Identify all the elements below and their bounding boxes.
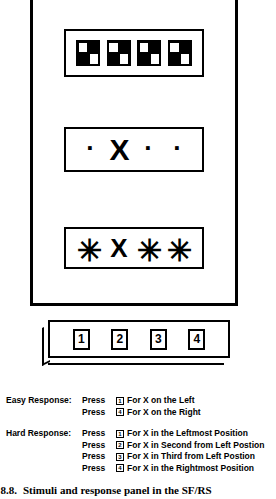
press-label: Press: [82, 463, 116, 475]
key-chip-icon: 1: [116, 397, 124, 405]
press-label: Press: [82, 407, 116, 419]
figure-caption-number: ure 8.8.: [0, 484, 17, 496]
stimulus-panel: · X · · ✳ X ✳ ✳: [30, 0, 238, 306]
hard-response-label: Hard Response:: [0, 428, 82, 440]
key-chip-icon: 2: [116, 441, 124, 449]
checkerboard-window: [64, 29, 204, 77]
stimulus-mark-target: X: [104, 235, 134, 261]
key-chip-icon: 4: [116, 464, 124, 472]
response-key-2[interactable]: 2: [111, 329, 128, 350]
checker-cell-black: [120, 43, 128, 52]
instruction-text: For X in the Leftmost Position: [127, 428, 248, 440]
figure-caption-text: Stimuli and response panel in the SF/RS: [23, 484, 212, 496]
checker-cell-white: [140, 43, 148, 52]
checker-glyph: [168, 40, 192, 66]
checker-cell-black: [151, 43, 159, 52]
instruction-line: Press 3 For X in Third from Left Postion: [82, 451, 276, 463]
checker-glyph: [137, 40, 161, 66]
easy-response-label: Easy Response:: [0, 395, 82, 407]
response-key-4[interactable]: 4: [188, 329, 205, 350]
easy-response-group: Easy Response: Press 1 For X on the Left…: [0, 395, 276, 418]
key-chip-icon: 3: [116, 453, 124, 461]
instruction-text: For X on the Right: [127, 407, 201, 419]
hard-response-lines: Press 1 For X in the Leftmost Position P…: [82, 428, 276, 474]
instruction-line: Press 4 For X on the Right: [82, 407, 276, 419]
press-label: Press: [82, 451, 116, 463]
instructions-block: Easy Response: Press 1 For X on the Left…: [0, 395, 276, 484]
checker-cell-white: [151, 54, 159, 63]
instruction-line: Press 1 For X in the Leftmost Position: [82, 428, 276, 440]
key-chip-icon: 1: [116, 430, 124, 438]
response-box-bottom-bevel: [48, 358, 224, 365]
press-label: Press: [82, 440, 116, 452]
figure-caption-inner: ure 8.8.Stimuli and response panel in th…: [0, 484, 212, 496]
instruction-text: For X on the Left: [127, 395, 195, 407]
instruction-text: For X in Second from Left Postion: [127, 440, 264, 452]
press-label: Press: [82, 428, 116, 440]
instruction-line: Press 4 For X in the Rightmost Position: [82, 463, 276, 475]
stimulus-mark-dot: ·: [163, 135, 192, 161]
figure-caption: ure 8.8.Stimuli and response panel in th…: [0, 484, 276, 499]
hard-stimulus-window: ✳ X ✳ ✳: [64, 227, 204, 269]
checker-cell-black: [140, 54, 148, 63]
checker-cell-white: [90, 54, 98, 63]
stimulus-mark-asterisk: ✳: [164, 236, 194, 266]
checker-cell-black: [181, 43, 189, 52]
checker-cell-black: [170, 54, 178, 63]
checker-cell-white: [170, 43, 178, 52]
figure-artwork: · X · · ✳ X ✳ ✳ 1 2 3 4: [0, 0, 276, 375]
checker-cell-black: [90, 43, 98, 52]
stimulus-mark-asterisk: ✳: [74, 236, 104, 266]
easy-response-lines: Press 1 For X on the Left Press 4 For X …: [82, 395, 276, 418]
stimulus-mark-target: X: [105, 135, 134, 165]
checker-cell-white: [120, 54, 128, 63]
instruction-line: Press 1 For X on the Left: [82, 395, 276, 407]
response-key-3[interactable]: 3: [150, 329, 167, 350]
press-label: Press: [82, 395, 116, 407]
checker-cell-white: [181, 54, 189, 63]
response-key-1[interactable]: 1: [73, 329, 90, 350]
checker-glyph: [107, 40, 131, 66]
checker-cell-white: [79, 43, 87, 52]
instruction-line: Press 2 For X in Second from Left Postio…: [82, 440, 276, 452]
instruction-text: For X in Third from Left Postion: [127, 451, 255, 463]
checker-cell-white: [109, 43, 117, 52]
checker-cell-black: [79, 54, 87, 63]
stimulus-mark-dot: ·: [134, 135, 163, 161]
checker-glyph: [76, 40, 100, 66]
hard-response-group: Hard Response: Press 1 For X in the Left…: [0, 428, 276, 474]
response-box-face: 1 2 3 4: [48, 320, 230, 358]
stimulus-mark-dot: ·: [76, 135, 105, 161]
stimulus-mark-asterisk: ✳: [134, 236, 164, 266]
key-chip-icon: 4: [116, 408, 124, 416]
checker-cell-black: [109, 54, 117, 63]
easy-stimulus-window: · X · ·: [64, 127, 204, 172]
instruction-text: For X in the Rightmost Position: [127, 463, 254, 475]
response-button-box: 1 2 3 4: [42, 320, 230, 368]
